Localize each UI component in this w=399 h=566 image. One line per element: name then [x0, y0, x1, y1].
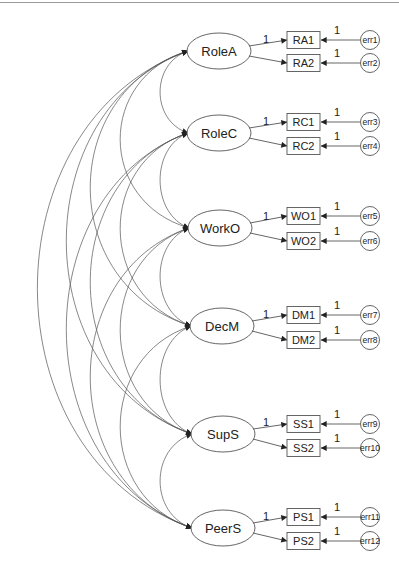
loading-arrow: [253, 424, 287, 429]
error-weight: 1: [334, 501, 340, 513]
error-label: err10: [360, 443, 380, 453]
covariance-arc-rolec-decm: [120, 133, 191, 326]
indicator-ps1[interactable]: 1PS11err11: [253, 501, 380, 527]
loading-coefficient: 1: [263, 308, 269, 320]
covariance-arc-rolec-peers: [66, 133, 192, 528]
error-label: err1: [362, 35, 377, 45]
error-label: err6: [362, 236, 377, 246]
observed-label: RC1: [292, 116, 314, 128]
error-label: err5: [362, 211, 377, 221]
loading-coefficient: 1: [263, 115, 269, 127]
observed-label: RA1: [293, 34, 314, 46]
loading-arrow: [250, 233, 287, 241]
indicator-dm1[interactable]: 1DM11err7: [252, 299, 380, 325]
indicator-ss1[interactable]: 1SS11err9: [253, 408, 380, 434]
error-weight: 1: [334, 47, 340, 59]
loading-coefficient: 1: [263, 33, 269, 45]
observed-label: RA2: [293, 57, 314, 69]
covariance-arc-sups-peers: [160, 434, 192, 528]
indicator-rc1[interactable]: 1RC11err3: [249, 106, 380, 132]
loading-coefficient: 1: [263, 510, 269, 522]
loading-arrow: [252, 331, 287, 340]
error-label: err11: [360, 512, 379, 522]
latent-label: SupS: [207, 427, 239, 442]
indicator-wo2[interactable]: WO21err6: [250, 225, 380, 251]
indicator-wo1[interactable]: 1WO11err5: [250, 200, 380, 226]
latent-rolec[interactable]: RoleC: [187, 115, 251, 151]
loading-coefficient: 1: [263, 416, 269, 428]
observed-label: RC2: [292, 140, 314, 152]
latent-label: DecM: [205, 319, 239, 334]
error-weight: 1: [334, 324, 340, 336]
observed-label: WO2: [291, 235, 316, 247]
loading-arrow: [249, 56, 287, 63]
indicator-dm2[interactable]: DM21err8: [252, 324, 380, 350]
indicator-rc2[interactable]: RC21err4: [249, 130, 380, 156]
covariance-arc-rolec-sups: [90, 133, 192, 434]
error-weight: 1: [334, 130, 340, 142]
latent-label: RoleA: [201, 44, 237, 59]
loading-arrow: [252, 315, 287, 321]
loading-coefficient: 1: [263, 210, 269, 222]
latent-worko[interactable]: WorkO: [188, 210, 252, 246]
covariance-arcs: [37, 51, 192, 528]
indicator-ra1[interactable]: 1RA11err1: [249, 24, 380, 50]
error-label: err8: [362, 335, 377, 345]
covariance-arc-decm-sups: [160, 326, 192, 434]
error-weight: 1: [334, 106, 340, 118]
model-nodes: RoleA1RA11err1RA21err2RoleC1RC11err3RC21…: [187, 24, 380, 551]
covariance-arc-rolea-decm: [90, 51, 191, 326]
loading-arrow: [253, 439, 287, 448]
covariance-arc-rolea-rolec: [160, 51, 188, 133]
observed-label: PS2: [293, 535, 314, 547]
latent-label: RoleC: [201, 126, 237, 141]
covariance-arc-decm-peers: [120, 326, 192, 528]
sem-path-diagram: RoleA1RA11err1RA21err2RoleC1RC11err3RC21…: [0, 0, 399, 566]
covariance-arc-rolea-worko: [120, 51, 189, 228]
covariance-arc-rolea-peers: [37, 51, 192, 528]
latent-rolea[interactable]: RoleA: [187, 33, 251, 69]
covariance-arc-worko-peers: [90, 228, 192, 528]
observed-label: SS1: [293, 418, 314, 430]
observed-label: DM2: [292, 334, 315, 346]
loading-arrow: [253, 533, 287, 541]
observed-label: WO1: [291, 210, 316, 222]
latent-sups[interactable]: SupS: [191, 416, 255, 452]
indicator-ra2[interactable]: RA21err2: [249, 47, 380, 73]
error-label: err12: [360, 536, 380, 546]
loading-arrow: [253, 517, 287, 523]
indicator-ss2[interactable]: SS21err10: [253, 432, 380, 458]
covariance-arc-worko-decm: [160, 228, 191, 326]
error-weight: 1: [334, 200, 340, 212]
indicator-ps2[interactable]: PS21err12: [253, 525, 380, 551]
loading-arrow: [249, 138, 287, 146]
error-label: err4: [362, 141, 377, 151]
covariance-arc-rolec-worko: [160, 133, 189, 228]
observed-label: PS1: [293, 511, 314, 523]
error-label: err7: [362, 310, 377, 320]
latent-decm[interactable]: DecM: [190, 308, 254, 344]
error-weight: 1: [334, 432, 340, 444]
error-label: err3: [362, 117, 377, 127]
error-weight: 1: [334, 24, 340, 36]
error-weight: 1: [334, 225, 340, 237]
latent-label: WorkO: [200, 221, 240, 236]
error-label: err9: [362, 419, 377, 429]
error-label: err2: [362, 58, 377, 68]
latent-peers[interactable]: PeerS: [191, 510, 255, 546]
error-weight: 1: [334, 525, 340, 537]
error-weight: 1: [334, 299, 340, 311]
error-weight: 1: [334, 408, 340, 420]
observed-label: SS2: [293, 442, 314, 454]
latent-label: PeerS: [205, 521, 241, 536]
observed-label: DM1: [292, 309, 315, 321]
